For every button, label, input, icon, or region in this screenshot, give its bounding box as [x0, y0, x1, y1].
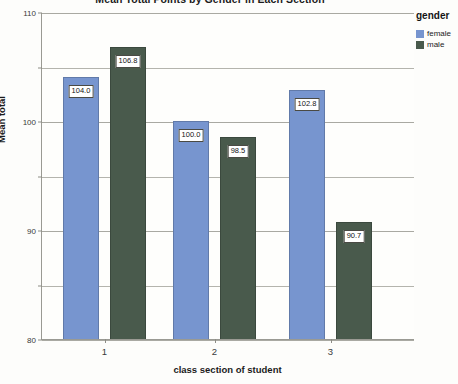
gridline-105	[42, 68, 414, 69]
legend-label: male	[427, 40, 444, 49]
y-tick-mark-95	[38, 176, 42, 177]
legend: gender femalemale	[416, 10, 458, 51]
x-tick-mark-1	[105, 339, 106, 343]
y-tick-mark-100	[38, 122, 42, 123]
legend-swatch-female	[416, 30, 424, 38]
bar-value-label: 104.0	[69, 85, 94, 98]
x-tick-label-3: 3	[328, 346, 333, 357]
bar-value-label: 90.7	[344, 230, 365, 243]
bar-female-section-1[interactable]: 104.0	[63, 77, 99, 339]
x-axis-label: class section of student	[41, 364, 414, 375]
y-tick-label-100: 100	[23, 118, 36, 127]
bar-male-section-3[interactable]: 90.7	[336, 222, 372, 339]
x-tick-label-1: 1	[102, 346, 107, 357]
legend-swatch-male	[416, 41, 424, 49]
y-tick-label-80: 80	[27, 336, 36, 345]
bar-value-label: 106.8	[116, 55, 141, 68]
y-tick-mark-90	[38, 231, 42, 232]
bar-female-section-3[interactable]: 102.8	[289, 90, 325, 339]
x-tick-mark-2	[215, 339, 216, 343]
bar-value-label: 100.0	[179, 129, 204, 142]
chart-title: Mean Total Points by Gender in Each Sect…	[0, 0, 420, 5]
bar-male-section-2[interactable]: 98.5	[220, 137, 256, 339]
bar-male-section-1[interactable]: 106.8	[110, 47, 146, 339]
x-tick-mark-3	[331, 339, 332, 343]
x-tick-label-2: 2	[212, 346, 217, 357]
bar-chart: Mean Total Points by Gender in Each Sect…	[0, 0, 458, 384]
legend-item-female[interactable]: female	[416, 29, 458, 38]
legend-entries: femalemale	[416, 29, 458, 49]
y-tick-mark-105	[38, 67, 42, 68]
y-axis-label: Mean total	[0, 96, 7, 143]
legend-item-male[interactable]: male	[416, 40, 458, 49]
y-tick-mark-80	[38, 340, 42, 341]
plot-area: 1101009080 104.0106.8100.098.5102.890.7 …	[41, 13, 414, 340]
y-tick-label-110: 110	[23, 9, 36, 18]
legend-title: gender	[416, 10, 458, 21]
gridline-80	[42, 340, 414, 341]
bar-female-section-2[interactable]: 100.0	[173, 121, 209, 339]
y-tick-mark-110	[38, 13, 42, 14]
gridline-110	[42, 13, 414, 14]
bar-value-label: 102.8	[295, 98, 320, 111]
bar-value-label: 98.5	[228, 145, 249, 158]
y-tick-mark-85	[38, 285, 42, 286]
legend-label: female	[427, 29, 451, 38]
y-tick-label-90: 90	[27, 227, 36, 236]
